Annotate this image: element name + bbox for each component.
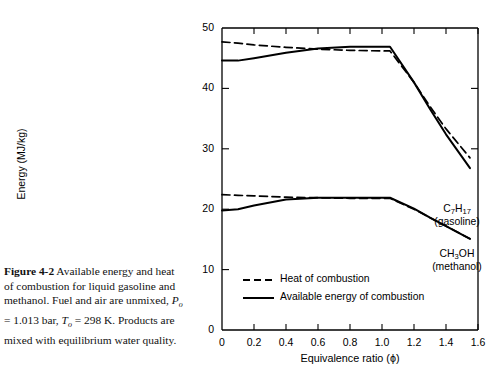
x-tick-label: 1.6: [465, 336, 491, 348]
x-tick-label: 1.2: [401, 336, 427, 348]
gasoline-annotation: C7H17 (gasoline): [420, 203, 494, 229]
legend-label-heat-of-combustion: Heat of combustion: [280, 273, 370, 284]
methanol-formula: CH3OH: [420, 248, 494, 261]
methanol-name: (methanol): [420, 261, 494, 273]
x-tick-label: 0.8: [337, 336, 363, 348]
chart-series-line: [222, 47, 470, 168]
x-tick-label: 1.4: [433, 336, 459, 348]
x-tick-label: 0: [209, 336, 235, 348]
y-axis-label: Energy (MJ/kg): [15, 119, 27, 209]
chart-figure: Energy (MJ/kg) Equivalence ratio (ϕ) 010…: [0, 0, 502, 383]
chart-series-line: [222, 42, 470, 158]
y-tick-label: 40: [192, 81, 214, 93]
x-axis-label-text: Equivalence ratio (ϕ): [300, 352, 399, 364]
gasoline-formula: C7H17: [420, 203, 494, 216]
x-tick-label: 0.2: [241, 336, 267, 348]
x-axis-label: Equivalence ratio (ϕ): [260, 352, 440, 364]
legend-label-available-energy: Available energy of combustion: [280, 291, 424, 302]
chart-tick-marks: [222, 28, 478, 330]
x-tick-label: 0.4: [273, 336, 299, 348]
methanol-annotation: CH3OH (methanol): [420, 248, 494, 274]
x-tick-label: 1.0: [369, 336, 395, 348]
y-tick-label: 20: [192, 202, 214, 214]
y-tick-label: 50: [192, 21, 214, 33]
legend-box: [243, 280, 274, 298]
y-tick-label: 0: [192, 323, 214, 335]
chart-axes: [222, 28, 478, 330]
x-tick-label: 0.6: [305, 336, 331, 348]
y-tick-label: 30: [192, 142, 214, 154]
chart-canvas: [0, 0, 502, 383]
gasoline-name: (gasoline): [420, 216, 494, 228]
y-tick-label: 10: [192, 263, 214, 275]
